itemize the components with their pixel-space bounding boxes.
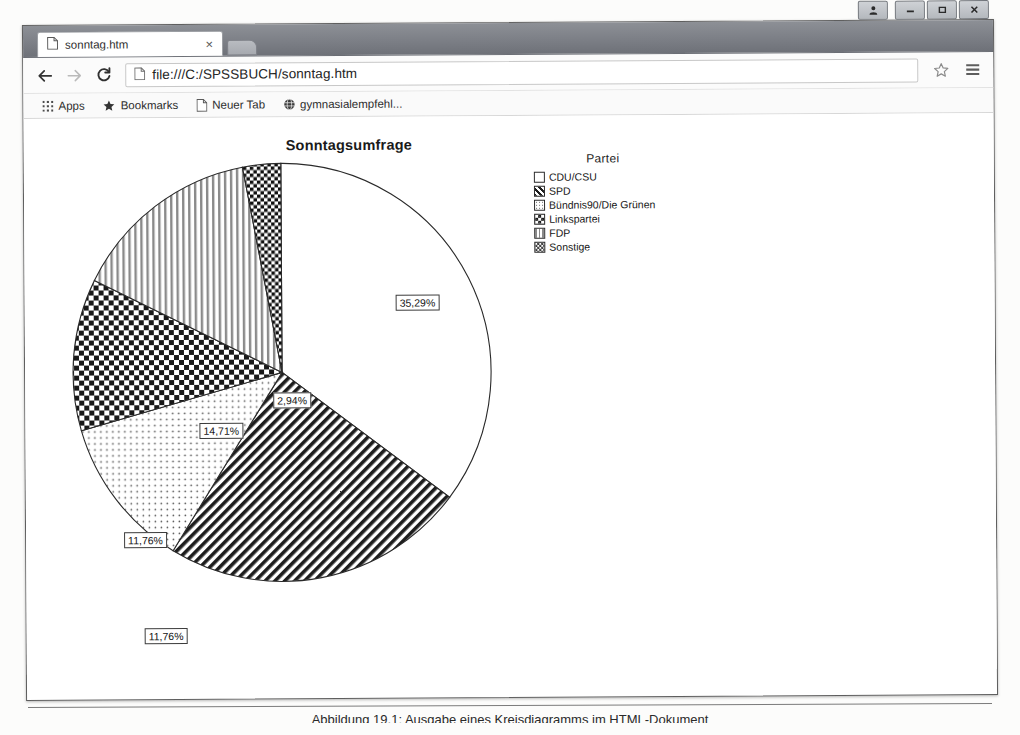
legend-label: Linkspartei	[549, 212, 600, 224]
bookmark-label: gymnasialempfehl...	[300, 98, 402, 111]
apps-grid-icon	[42, 100, 53, 111]
slice-label-buendnis90: 11,76%	[145, 628, 188, 644]
globe-icon	[283, 98, 295, 110]
bookmark-neuer-tab[interactable]: Neuer Tab	[189, 96, 272, 114]
slice-label-linkspartei: 11,76%	[124, 532, 167, 548]
legend-swatch-solid-white	[534, 171, 545, 182]
close-button[interactable]	[959, 0, 989, 19]
tab-close-icon[interactable]: ×	[203, 37, 215, 50]
user-account-button[interactable]	[858, 1, 888, 20]
legend-swatch-coarse-checker	[534, 213, 545, 224]
bookmark-label: Neuer Tab	[212, 98, 265, 110]
bookmark-gymnasialempfehlung[interactable]: gymnasialempfehl...	[276, 96, 409, 113]
page-icon	[47, 36, 58, 54]
legend-item-spd[interactable]: SPD	[534, 184, 744, 197]
bookmark-star-icon[interactable]	[930, 59, 952, 81]
maximize-button[interactable]	[927, 0, 957, 19]
legend-title: Partei	[528, 151, 678, 166]
tab-strip: sonntag.htm ×	[23, 30, 257, 57]
tab-sonntag[interactable]: sonntag.htm ×	[37, 31, 223, 57]
star-icon	[103, 99, 116, 112]
legend-label: FDP	[549, 227, 570, 239]
tab-title: sonntag.htm	[65, 38, 196, 51]
legend-swatch-diagonal-stripes	[534, 185, 545, 196]
hamburger-menu-icon[interactable]	[961, 59, 983, 81]
bookmark-label: Apps	[58, 100, 84, 112]
minimize-button[interactable]	[895, 0, 925, 19]
browser-toolbar: file:///C:/SPSSBUCH/sonntag.htm	[23, 52, 993, 94]
bookmark-label: Bookmarks	[121, 99, 179, 111]
forward-button[interactable]	[64, 65, 84, 85]
window-controls	[858, 0, 989, 20]
legend-item-sonstige[interactable]: Sonstige	[534, 240, 744, 253]
legend-item-cdu-csu[interactable]: CDU/CSU	[534, 170, 744, 183]
page-viewport: Sonntagsumfrage	[24, 113, 997, 675]
page-icon	[196, 98, 207, 111]
bookmark-apps[interactable]: Apps	[35, 98, 91, 114]
legend-item-linkspartei[interactable]: Linkspartei	[534, 212, 744, 225]
url-text: file:///C:/SPSSBUCH/sonntag.htm	[152, 66, 357, 82]
browser-titlebar: sonntag.htm ×	[23, 20, 993, 58]
browser-window: sonntag.htm ×	[22, 19, 998, 701]
legend-label: Bündnis90/Die Grünen	[549, 198, 655, 211]
legend-swatch-fine-dots	[534, 199, 545, 210]
legend-swatch-dense-checker	[534, 241, 545, 252]
back-button[interactable]	[35, 65, 55, 85]
legend-item-fdp[interactable]: FDP	[534, 226, 744, 239]
address-bar[interactable]: file:///C:/SPSSBUCH/sonntag.htm	[125, 58, 918, 87]
legend-label: SPD	[549, 185, 571, 197]
screenshot-root: sonntag.htm ×	[0, 0, 1020, 735]
bookmark-bookmarks[interactable]: Bookmarks	[96, 96, 186, 114]
slice-label-fdp: 14,71%	[199, 423, 243, 439]
pie-graphic	[68, 158, 497, 587]
legend-swatch-vertical-stripes	[534, 227, 545, 238]
legend-label: Sonstige	[549, 241, 590, 253]
page-icon	[134, 66, 145, 84]
chart-legend: Partei CDU/CSU SPD Bündnis90/Die Grünen	[514, 151, 745, 255]
legend-item-buendnis90[interactable]: Bündnis90/Die Grünen	[534, 198, 744, 211]
reload-button[interactable]	[93, 65, 113, 85]
slice-label-cdu-csu: 35,29%	[396, 294, 440, 310]
new-tab-button[interactable]	[227, 40, 257, 56]
slice-label-sonstige: 2,94%	[273, 392, 311, 408]
legend-label: CDU/CSU	[549, 170, 597, 182]
chart-title: Sonntagsumfrage	[286, 137, 412, 154]
pie-chart: Sonntagsumfrage	[24, 113, 997, 675]
